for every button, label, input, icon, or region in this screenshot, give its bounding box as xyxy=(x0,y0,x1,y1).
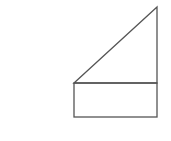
rectangle-shape xyxy=(74,83,157,117)
diagram-canvas xyxy=(0,0,171,141)
right-triangle-shape xyxy=(74,7,157,83)
